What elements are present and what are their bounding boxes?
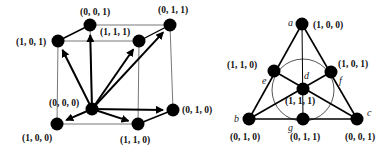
fano-point-letter: f: [339, 75, 343, 86]
fano-point-letter: a: [288, 17, 293, 28]
fano-point-d: [297, 83, 310, 96]
cube-vertex-v011: [164, 19, 177, 32]
fano-point-c: [351, 113, 364, 126]
cube-vertex-v101: [52, 35, 65, 48]
diagram-canvas: (0, 0, 0)(0, 0, 1)(0, 1, 1)(1, 0, 1)(1, …: [0, 0, 391, 152]
vector-arrow: [92, 109, 163, 110]
fano-lines: [249, 24, 357, 121]
vector-arrow: [92, 32, 163, 109]
fano-point-letter: g: [288, 122, 293, 133]
fano-nodes: (1, 0, 0)a(1, 1, 0)e(1, 0, 1)f(1, 1, 1)d…: [227, 17, 375, 143]
fano-point-b: [243, 113, 256, 126]
cube-vertex-v000: [86, 103, 99, 116]
fano-point-letter: c: [367, 107, 372, 118]
fano-point-letter: d: [304, 70, 310, 81]
fano-point-a: [296, 18, 309, 31]
cube-vertex-label: (1, 0, 1): [16, 37, 46, 48]
fano-point-label: (0, 0, 1): [345, 132, 375, 143]
cube-edge: [138, 41, 139, 124]
fano-point-label: (1, 0, 0): [313, 20, 343, 31]
cube-vertex-label: (0, 0, 1): [80, 7, 110, 18]
fano-point-label: (0, 1, 0): [230, 132, 260, 143]
cube-vertex-v111: [133, 35, 146, 48]
cube-vertex-v010: [167, 104, 180, 117]
cube-vertex-v001: [84, 19, 97, 32]
fano-point-letter: e: [262, 75, 267, 86]
fano-point-letter: b: [234, 113, 239, 124]
fano-point-label: (0, 1, 1): [290, 132, 320, 143]
cube-vertex-v100: [51, 118, 64, 131]
cube-vertex-label: (0, 1, 0): [182, 105, 212, 116]
vector-arrow: [90, 35, 92, 109]
cube-vertex-label: (1, 0, 0): [22, 133, 52, 144]
cube-edge: [57, 41, 58, 124]
vector-arrow: [92, 49, 133, 109]
cube-vertex-label: (1, 1, 1): [100, 27, 130, 38]
fano-point-g: [297, 113, 310, 126]
fano-point-e: [268, 65, 281, 78]
fano-point-label: (1, 1, 1): [285, 96, 315, 107]
fano-line: [274, 71, 357, 119]
cube-vertex-label: (0, 0, 0): [49, 98, 79, 109]
cube-vertex-label: (0, 1, 1): [158, 5, 188, 16]
fano-point-label: (1, 1, 0): [227, 60, 257, 71]
fano-point-label: (1, 0, 1): [338, 59, 368, 70]
cube-edge: [170, 25, 173, 110]
cube-vertex-label: (1, 1, 0): [120, 135, 150, 146]
fano-point-f: [325, 66, 338, 79]
cube-vertex-v110: [132, 118, 145, 131]
